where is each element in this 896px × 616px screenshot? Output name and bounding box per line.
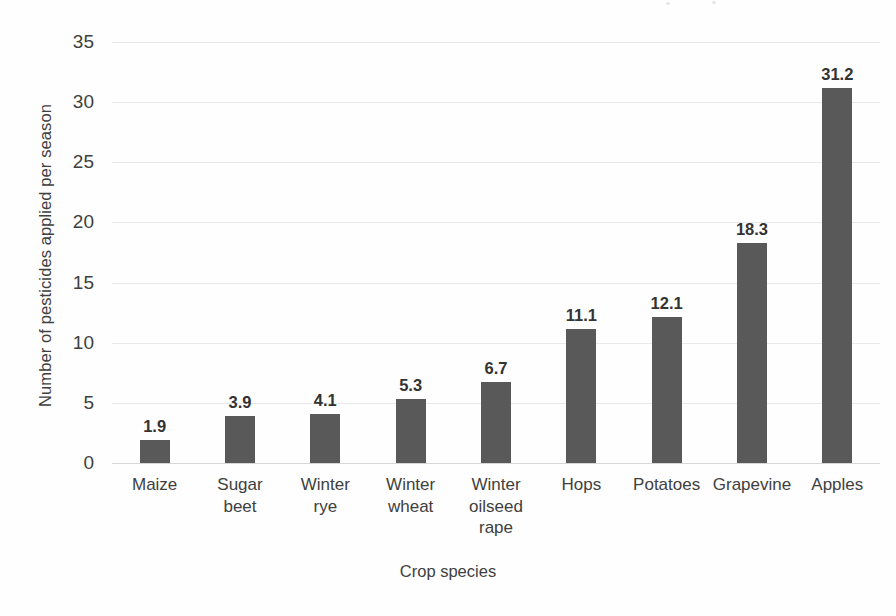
x-axis-category-label: Potatoes bbox=[621, 474, 713, 496]
y-axis-tick-label: 35 bbox=[42, 32, 94, 51]
x-axis-category-label-line: Winter bbox=[279, 474, 371, 496]
y-axis-tick-label: 5 bbox=[42, 393, 94, 412]
bar bbox=[822, 88, 852, 463]
y-axis-tick-label: 15 bbox=[42, 273, 94, 292]
x-axis-category-label-line: Winter bbox=[365, 474, 457, 496]
bar-value-label: 18.3 bbox=[717, 221, 787, 238]
x-axis-category-label: Winteroilseedrape bbox=[450, 474, 542, 539]
x-axis-category-label-line: beet bbox=[194, 496, 286, 518]
x-axis-category-label: Sugarbeet bbox=[194, 474, 286, 517]
plot-area: 1.93.94.15.36.711.112.118.331.2 bbox=[112, 42, 880, 463]
x-axis-category-label-line: wheat bbox=[365, 496, 457, 518]
y-axis-tick-label: 20 bbox=[42, 212, 94, 231]
bar-chart: Number of pesticides applied per season … bbox=[0, 0, 896, 616]
x-axis-category-label-line: Winter bbox=[450, 474, 542, 496]
x-axis-category-label-line: Grapevine bbox=[706, 474, 798, 496]
x-axis-category-label-line: Maize bbox=[109, 474, 201, 496]
x-axis-category-label: Maize bbox=[109, 474, 201, 496]
y-axis-tick-label: 0 bbox=[42, 453, 94, 472]
bar-value-label: 4.1 bbox=[290, 392, 360, 409]
bar-value-label: 6.7 bbox=[461, 360, 531, 377]
y-axis-tick-label: 30 bbox=[42, 92, 94, 111]
bar bbox=[566, 329, 596, 463]
x-axis-category-label-line: Potatoes bbox=[621, 474, 713, 496]
gridline bbox=[112, 102, 880, 103]
x-axis-category-label-line: Apples bbox=[791, 474, 883, 496]
gridline bbox=[112, 162, 880, 163]
y-axis-tick-label: 10 bbox=[42, 333, 94, 352]
x-axis-category-label-line: rape bbox=[450, 517, 542, 539]
bar-value-label: 3.9 bbox=[205, 394, 275, 411]
bar-value-label: 5.3 bbox=[376, 377, 446, 394]
bar bbox=[225, 416, 255, 463]
bar bbox=[737, 243, 767, 463]
x-axis-category-label: Winterwheat bbox=[365, 474, 457, 517]
bar-value-label: 1.9 bbox=[120, 418, 190, 435]
scan-artifact bbox=[666, 2, 670, 5]
x-axis-category-label-line: Sugar bbox=[194, 474, 286, 496]
bar-value-label: 12.1 bbox=[632, 295, 702, 312]
bar bbox=[140, 440, 170, 463]
x-axis-title: Crop species bbox=[0, 562, 896, 581]
gridline bbox=[112, 42, 880, 43]
bar bbox=[652, 317, 682, 463]
x-axis-category-label-line: oilseed bbox=[450, 496, 542, 518]
bar bbox=[481, 382, 511, 463]
x-axis-category-label-line: rye bbox=[279, 496, 371, 518]
x-axis-category-label: Apples bbox=[791, 474, 883, 496]
axis-baseline bbox=[112, 463, 880, 464]
x-axis-category-label-line: Hops bbox=[535, 474, 627, 496]
x-axis-category-label: Winterrye bbox=[279, 474, 371, 517]
scan-artifact bbox=[712, 1, 716, 4]
bar-value-label: 31.2 bbox=[802, 66, 872, 83]
x-axis-category-label: Grapevine bbox=[706, 474, 798, 496]
bar bbox=[396, 399, 426, 463]
bar bbox=[310, 414, 340, 463]
y-axis-tick-label: 25 bbox=[42, 152, 94, 171]
bar-value-label: 11.1 bbox=[546, 307, 616, 324]
x-axis-category-label: Hops bbox=[535, 474, 627, 496]
